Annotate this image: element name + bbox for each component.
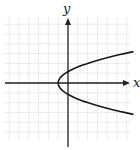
y-axis-label: y xyxy=(62,1,71,16)
y-axis-arrow-icon xyxy=(65,18,71,25)
coordinate-graph: x y xyxy=(0,0,140,150)
axes xyxy=(5,18,130,147)
x-axis-label: x xyxy=(133,75,140,90)
